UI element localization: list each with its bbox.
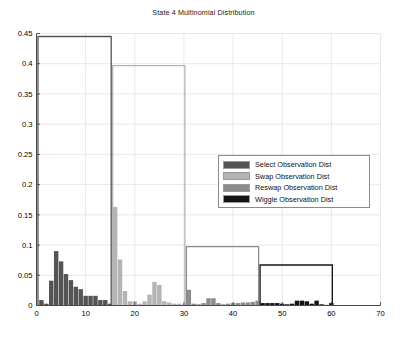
step-box-outline xyxy=(186,247,258,306)
x-tick-label: 40 xyxy=(229,309,237,318)
y-tick-label: 0 xyxy=(28,301,32,310)
bar xyxy=(251,302,255,306)
bar xyxy=(113,207,117,306)
figure: State 4 Multinomial Distribution 00.050.… xyxy=(0,0,407,340)
y-tick-label: 0.2 xyxy=(22,180,33,189)
y-tick-label: 0.4 xyxy=(22,59,33,68)
bar xyxy=(187,290,191,306)
bar xyxy=(211,298,215,305)
bar xyxy=(64,274,68,305)
x-tick-label: 60 xyxy=(327,309,335,318)
bar xyxy=(157,285,161,306)
x-tick-label: 20 xyxy=(131,309,139,318)
bar xyxy=(39,300,43,305)
bar xyxy=(103,300,107,305)
legend-label: Wiggle Observation Dist xyxy=(255,195,333,204)
y-tick-label: 0.35 xyxy=(18,90,33,99)
bar xyxy=(118,260,122,306)
bar xyxy=(59,261,63,305)
y-tick-label: 0.45 xyxy=(18,29,33,38)
y-tick-label: 0.15 xyxy=(18,211,33,220)
x-tick-label: 70 xyxy=(376,309,384,318)
bar xyxy=(79,289,83,305)
y-tick-label: 0.25 xyxy=(18,150,33,159)
step-box-outline xyxy=(113,66,185,306)
x-tick-label: 30 xyxy=(180,309,188,318)
bar xyxy=(128,301,132,305)
step-box-outline xyxy=(38,37,111,306)
y-tick-label: 0.3 xyxy=(22,120,33,129)
bar xyxy=(162,301,166,305)
bar xyxy=(142,301,146,305)
legend-label: Reswap Observation Dist xyxy=(255,183,337,192)
legend: Select Observation DistSwap Observation … xyxy=(218,155,370,208)
bar xyxy=(206,298,210,305)
legend-swatch-icon xyxy=(223,195,250,203)
legend-item: Swap Observation Dist xyxy=(223,171,365,183)
bar xyxy=(300,301,304,306)
x-tick-label: 0 xyxy=(34,309,38,318)
step-box-outline xyxy=(260,265,332,306)
bar xyxy=(49,281,53,306)
legend-swatch-icon xyxy=(223,172,250,180)
legend-item: Wiggle Observation Dist xyxy=(223,194,365,206)
bar xyxy=(54,251,58,305)
bar xyxy=(88,296,92,306)
legend-label: Select Observation Dist xyxy=(255,160,331,169)
bar xyxy=(147,295,151,306)
x-tick-label: 10 xyxy=(81,309,89,318)
y-tick-label: 0.05 xyxy=(18,271,33,280)
bar xyxy=(69,280,73,305)
legend-swatch-icon xyxy=(223,184,250,192)
x-tick-label: 50 xyxy=(278,309,286,318)
legend-item: Select Observation Dist xyxy=(223,159,365,171)
bar xyxy=(74,287,78,306)
bar xyxy=(305,301,309,305)
bar xyxy=(152,282,156,306)
y-tick-label: 0.1 xyxy=(22,241,33,250)
legend-item: Reswap Observation Dist xyxy=(223,182,365,194)
bar xyxy=(295,301,299,306)
bar xyxy=(123,291,127,306)
legend-label: Swap Observation Dist xyxy=(255,172,329,181)
bar xyxy=(314,301,318,306)
bar xyxy=(98,300,102,305)
legend-swatch-icon xyxy=(223,161,250,169)
bar xyxy=(93,296,97,306)
